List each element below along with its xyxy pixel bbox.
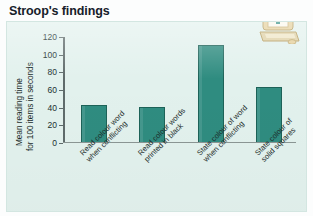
y-tick bbox=[59, 72, 63, 73]
chart-figure: Stroop's findings Mean reading time for … bbox=[0, 0, 313, 216]
y-axis-line bbox=[63, 37, 65, 143]
y-tick-label: 120 bbox=[43, 32, 57, 42]
y-tick bbox=[59, 55, 63, 56]
y-tick-label: 60 bbox=[48, 85, 57, 95]
page-title: Stroop's findings bbox=[9, 4, 110, 18]
y-tick bbox=[59, 90, 63, 91]
y-tick bbox=[59, 143, 63, 144]
y-tick-label: 80 bbox=[48, 67, 57, 77]
x-axis-labels: Read colour wordwhen conflictingRead col… bbox=[63, 147, 303, 212]
y-axis-label-line-2: for 100 items in seconds bbox=[26, 62, 35, 151]
y-tick-label: 100 bbox=[43, 50, 57, 60]
y-axis-label-line-1: Mean reading time bbox=[15, 78, 24, 146]
y-tick bbox=[59, 37, 63, 38]
chart-panel: Mean reading time for 100 items in secon… bbox=[6, 21, 307, 212]
y-tick bbox=[59, 125, 63, 126]
y-tick-label: 0 bbox=[52, 138, 57, 148]
y-axis-label: Mean reading time for 100 items in secon… bbox=[7, 38, 29, 148]
y-tick-label: 20 bbox=[48, 120, 57, 130]
y-tick bbox=[59, 108, 63, 109]
y-tick-label: 40 bbox=[48, 103, 57, 113]
